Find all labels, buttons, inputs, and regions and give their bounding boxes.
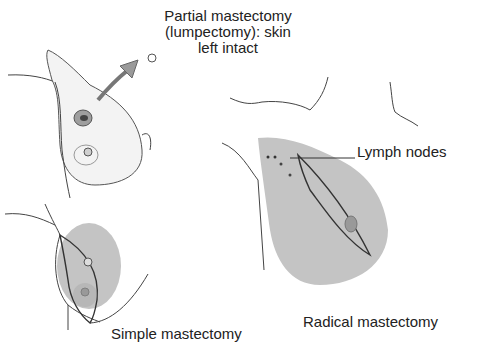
simple-mastectomy-figure xyxy=(5,204,148,330)
lymph-nodes-label: Lymph nodes xyxy=(357,144,447,160)
partial-mastectomy-label: Partial mastectomy (lumpectomy): skin le… xyxy=(148,8,308,56)
radical-mastectomy-label: Radical mastectomy xyxy=(303,314,438,330)
partial-label-line2: (lumpectomy): skin xyxy=(148,24,308,40)
partial-label-line3: left intact xyxy=(148,40,308,56)
radical-mastectomy-figure xyxy=(222,77,418,285)
partial-label-line1: Partial mastectomy xyxy=(148,8,308,24)
simple-mastectomy-label: Simple mastectomy xyxy=(111,326,242,342)
partial-mastectomy-figure xyxy=(8,50,156,198)
